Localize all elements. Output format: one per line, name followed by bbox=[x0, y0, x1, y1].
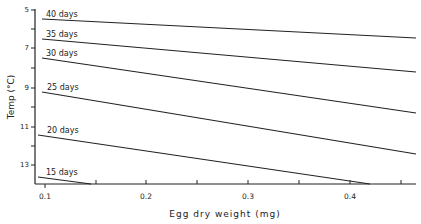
series-label-25-days: 25 days bbox=[47, 83, 79, 92]
y-axis-label: Temp (°C) bbox=[6, 75, 16, 121]
y-tick-labels: 5 7 9 11 13 bbox=[20, 6, 29, 169]
chart: 5 7 9 11 13 0.1 0.2 0.3 0.4 Egg dry weig… bbox=[0, 0, 421, 224]
series-label-35-days: 35 days bbox=[46, 30, 78, 39]
x-tick-label: 0.3 bbox=[242, 192, 254, 201]
series-label-30-days: 30 days bbox=[46, 49, 78, 58]
y-tick-label: 11 bbox=[20, 123, 29, 131]
line-35-days bbox=[42, 39, 416, 72]
line-chart: 5 7 9 11 13 0.1 0.2 0.3 0.4 Egg dry weig… bbox=[0, 0, 421, 224]
line-40-days bbox=[42, 19, 416, 38]
x-axis-label: Egg dry weight (mg) bbox=[169, 209, 280, 219]
line-15-days bbox=[38, 177, 91, 184]
series-lines bbox=[38, 19, 416, 184]
y-tick-label: 5 bbox=[25, 6, 29, 14]
x-tick-labels: 0.1 0.2 0.3 0.4 bbox=[39, 192, 356, 201]
line-25-days bbox=[42, 92, 416, 154]
y-tick-label: 13 bbox=[20, 161, 29, 169]
x-tick-label: 0.1 bbox=[39, 192, 51, 201]
series-label-40-days: 40 days bbox=[46, 10, 78, 19]
series-label-15-days: 15 days bbox=[46, 168, 78, 177]
line-30-days bbox=[42, 58, 416, 113]
x-tick-label: 0.4 bbox=[344, 192, 356, 201]
x-tick-label: 0.2 bbox=[140, 192, 152, 201]
series-label-20-days: 20 days bbox=[47, 126, 79, 135]
line-20-days bbox=[38, 135, 370, 184]
y-tick-label: 9 bbox=[25, 84, 29, 92]
y-tick-label: 7 bbox=[25, 44, 29, 52]
